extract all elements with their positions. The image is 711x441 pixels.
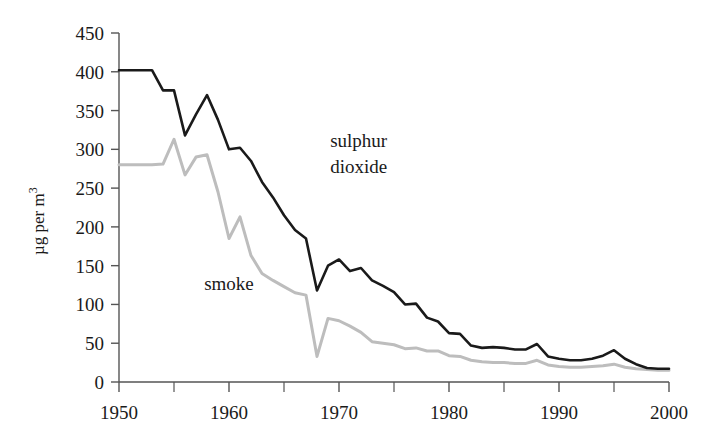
annotation-sulphur-dioxide-line-1: sulphur [330,130,388,151]
pollution-line-chart: 050100150200250300350400450 195019601970… [0,0,711,441]
y-tick-label: 250 [76,178,105,199]
x-axis: 195019601970198019902000 [100,382,688,423]
y-axis-title-superscript: 3 [26,187,40,193]
series-line-smoke [119,139,669,370]
x-tick-label: 1960 [210,402,248,423]
y-tick-label: 50 [85,333,104,354]
series-annotations: sulphurdioxidesmoke [204,130,388,294]
chart-canvas: 050100150200250300350400450 195019601970… [0,0,711,441]
y-tick-label: 200 [76,217,105,238]
y-tick-label: 350 [76,101,105,122]
x-tick-label: 1950 [100,402,138,423]
x-tick-label: 1990 [540,402,578,423]
y-axis-ticks [111,33,119,382]
annotation-sulphur-dioxide-line-2: dioxide [330,156,387,177]
x-axis-minor-ticks [174,382,614,392]
y-axis-title: µg per m3 [26,187,48,255]
y-tick-label: 300 [76,139,105,160]
y-tick-label: 0 [95,372,105,393]
x-axis-tick-labels: 195019601970198019902000 [100,402,688,423]
series-line-sulphur-dioxide [119,70,669,369]
y-tick-label: 100 [76,294,105,315]
y-axis-tick-labels: 050100150200250300350400450 [76,23,105,393]
x-tick-label: 2000 [650,402,688,423]
x-tick-label: 1970 [320,402,358,423]
y-tick-label: 450 [76,23,105,44]
y-axis: 050100150200250300350400450 [76,23,120,393]
annotation-smoke-line-1: smoke [204,273,254,294]
x-tick-label: 1980 [430,402,468,423]
y-tick-label: 150 [76,256,105,277]
data-series-group [119,70,669,370]
y-tick-label: 400 [76,62,105,83]
